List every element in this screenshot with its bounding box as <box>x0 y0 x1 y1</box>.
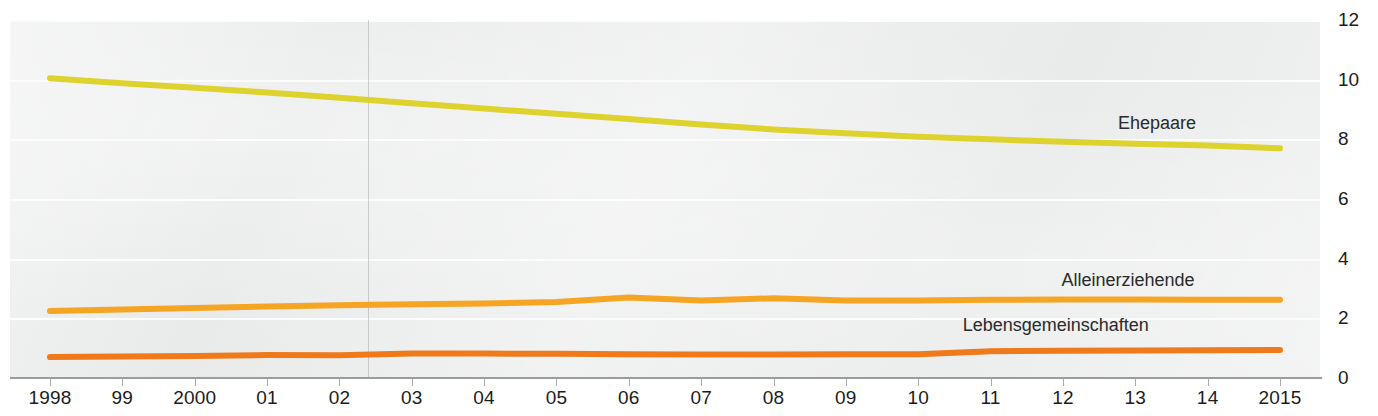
gridline-8 <box>10 139 1320 141</box>
x-tick <box>1280 379 1281 386</box>
x-tick <box>122 379 123 386</box>
vertical-guide-line <box>368 20 369 378</box>
x-tick-label: 04 <box>473 387 495 409</box>
x-tick-label: 03 <box>401 387 423 409</box>
x-tick <box>484 379 485 386</box>
y-tick-label: 0 <box>1338 367 1349 389</box>
x-tick <box>50 379 51 386</box>
y-tick-label: 10 <box>1338 69 1359 91</box>
x-tick <box>412 379 413 386</box>
gridline-10 <box>10 80 1320 82</box>
y-tick-label: 8 <box>1338 128 1349 150</box>
series-label-alleinerziehende: Alleinerziehende <box>1062 270 1195 291</box>
x-tick-label: 1998 <box>28 387 71 409</box>
x-axis-line <box>10 377 1322 379</box>
x-tick <box>918 379 919 386</box>
x-tick <box>629 379 630 386</box>
x-tick-label: 09 <box>835 387 857 409</box>
x-tick-label: 05 <box>546 387 568 409</box>
x-tick-label: 01 <box>256 387 278 409</box>
gridline-12 <box>10 20 1320 22</box>
series-label-ehepaare: Ehepaare <box>1118 112 1196 133</box>
x-tick-label: 02 <box>329 387 351 409</box>
x-tick-label: 06 <box>618 387 640 409</box>
y-tick-label: 6 <box>1338 188 1349 210</box>
y-tick-label: 12 <box>1338 9 1359 31</box>
x-tick <box>774 379 775 386</box>
x-tick-label: 12 <box>1052 387 1074 409</box>
series-label-lebensgemeinschaften: Lebensgemeinschaften <box>963 315 1149 336</box>
x-tick-label: 08 <box>763 387 785 409</box>
x-tick <box>556 379 557 386</box>
x-tick-label: 10 <box>907 387 929 409</box>
x-tick <box>1063 379 1064 386</box>
y-tick-label: 4 <box>1338 248 1349 270</box>
x-tick-label: 2000 <box>173 387 216 409</box>
x-tick <box>1208 379 1209 386</box>
x-tick-label: 99 <box>112 387 134 409</box>
y-tick-label: 2 <box>1338 307 1349 329</box>
x-tick-label: 13 <box>1125 387 1147 409</box>
x-tick <box>1135 379 1136 386</box>
x-tick <box>195 379 196 386</box>
x-tick-label: 07 <box>690 387 712 409</box>
x-tick <box>846 379 847 386</box>
x-tick <box>267 379 268 386</box>
line-chart: 1998992000010203040506070809101112131420… <box>0 0 1378 416</box>
gridline-4 <box>10 259 1320 261</box>
x-tick-label: 11 <box>981 387 1001 409</box>
x-tick-label: 14 <box>1197 387 1219 409</box>
x-tick-label: 2015 <box>1258 387 1301 409</box>
gridline-6 <box>10 199 1320 201</box>
x-tick <box>339 379 340 386</box>
x-tick <box>991 379 992 386</box>
x-tick <box>701 379 702 386</box>
